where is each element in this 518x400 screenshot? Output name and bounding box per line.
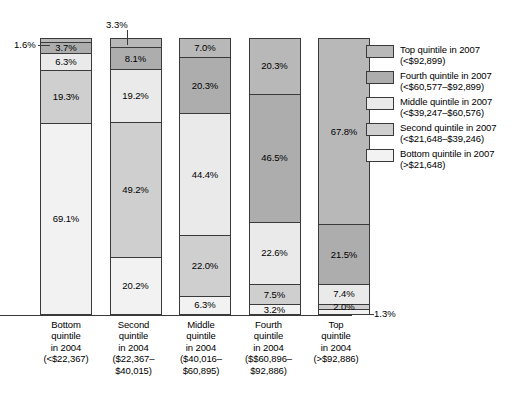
- x-axis-label-line: quintile: [100, 330, 168, 341]
- segment-value-label: 3.2%: [264, 305, 285, 315]
- bar-bottom-2004[interactable]: 1.6%3.7%6.3%19.3%69.1%: [40, 38, 92, 315]
- bar-segment-fourth[interactable]: 21.5%: [319, 225, 369, 284]
- bar-segment-bottom[interactable]: 69.1%: [41, 124, 91, 314]
- legend-label-line: (<$92,899): [400, 55, 480, 66]
- chart-legend: Top quintile in 2007(<$92,899)Fourth qui…: [366, 44, 514, 174]
- x-axis-label-line: Bottom: [32, 319, 100, 330]
- segment-value-label: 22.6%: [261, 248, 287, 258]
- bar-segment-fourth[interactable]: 8.1%: [111, 48, 161, 70]
- legend-label: Second quintile in 2007(<$21,648–$39,246…: [400, 122, 496, 144]
- x-axis-label-line: Top: [302, 319, 370, 330]
- bar-second-2004[interactable]: 3.3%8.1%19.2%49.2%20.2%: [110, 38, 162, 315]
- segment-value-label: 49.2%: [122, 185, 148, 195]
- x-axis-label-line: quintile: [235, 330, 303, 341]
- x-axis-label-line: quintile: [32, 330, 100, 341]
- legend-item-fourth[interactable]: Fourth quintile in 2007(<$60,577–$92,899…: [366, 70, 514, 92]
- x-axis-label-line: (<$22,367): [32, 353, 100, 364]
- bar-segment-second[interactable]: 19.3%: [41, 71, 91, 124]
- bar-segment-second[interactable]: 7.5%: [250, 285, 300, 306]
- segment-value-label: 7.5%: [264, 290, 285, 300]
- segment-value-label: 46.5%: [261, 153, 287, 163]
- x-axis-label-line: in 2004: [32, 342, 100, 353]
- legend-item-bottom[interactable]: Bottom quintile in 2007(>$21,648): [366, 148, 514, 170]
- legend-label-line: Bottom quintile in 2007: [400, 148, 494, 159]
- bar-stack: 67.8%21.5%7.4%2.0%1.3%: [318, 38, 370, 315]
- bars-row: 1.6%3.7%6.3%19.3%69.1%3.3%8.1%19.2%49.2%…: [40, 40, 370, 315]
- bar-segment-middle[interactable]: 44.4%: [180, 114, 230, 236]
- x-axis-label-line: in 2004: [302, 342, 370, 353]
- bar-segment-fourth[interactable]: 20.3%: [180, 58, 230, 114]
- x-axis-label-line: $40,015): [100, 365, 168, 376]
- x-axis-label-line: ($40,016–: [167, 353, 235, 364]
- bar-segment-top[interactable]: 7.0%: [180, 39, 230, 58]
- legend-label: Fourth quintile in 2007(<$60,577–$92,899…: [400, 70, 492, 92]
- x-axis-label-line: ($22,367–: [100, 353, 168, 364]
- bar-segment-bottom[interactable]: 6.3%: [180, 297, 230, 314]
- bar-stack: 3.3%8.1%19.2%49.2%20.2%: [110, 38, 162, 315]
- x-axis-label-line: (>$92,886): [302, 353, 370, 364]
- bar-segment-middle[interactable]: 19.2%: [111, 70, 161, 123]
- segment-value-label: 19.2%: [122, 91, 148, 101]
- legend-label: Middle quintile in 2007(<$39,247–$60,576…: [400, 96, 492, 118]
- segment-value-label: 44.4%: [192, 170, 218, 180]
- x-axis-label-0: Bottomquintilein 2004(<$22,367): [32, 319, 100, 376]
- stacked-bar-chart: 1.6%3.7%6.3%19.3%69.1%3.3%8.1%19.2%49.2%…: [0, 0, 518, 400]
- segment-value-label: 67.8%: [331, 127, 357, 137]
- x-axis-label-2: Middlequintilein 2004($40,016–$60,895): [167, 319, 235, 376]
- segment-value-label: 20.3%: [261, 61, 287, 71]
- callout-bar5-bottom-leader: [362, 314, 374, 315]
- legend-item-top[interactable]: Top quintile in 2007(<$92,899): [366, 44, 514, 66]
- callout-bar1-top-leader: [38, 45, 50, 46]
- callout-bar5-bottom: 1.3%: [374, 308, 396, 319]
- bar-segment-top[interactable]: 3.3%: [111, 39, 161, 48]
- legend-label: Bottom quintile in 2007(>$21,648): [400, 148, 494, 170]
- x-axis-label-line: Second: [100, 319, 168, 330]
- legend-label-line: (<$60,577–$92,899): [400, 81, 492, 92]
- x-axis-label-line: Middle: [167, 319, 235, 330]
- segment-value-label: 3.7%: [55, 43, 76, 53]
- x-axis-baseline: [0, 315, 352, 316]
- legend-label-line: Fourth quintile in 2007: [400, 70, 492, 81]
- x-axis-label-line: Fourth: [235, 319, 303, 330]
- x-axis-label-line: in 2004: [167, 342, 235, 353]
- x-axis-label-4: Topquintilein 2004(>$92,886): [302, 319, 370, 376]
- bar-fourth-2004[interactable]: 20.3%46.5%22.6%7.5%3.2%: [249, 38, 301, 315]
- x-axis-labels: Bottomquintilein 2004(<$22,367)Secondqui…: [40, 319, 370, 376]
- bar-stack: 1.6%3.7%6.3%19.3%69.1%: [40, 38, 92, 315]
- callout-bar2-top: 3.3%: [106, 19, 128, 30]
- legend-label-line: Top quintile in 2007: [400, 44, 480, 55]
- legend-label-line: (>$21,648): [400, 159, 494, 170]
- bar-middle-2004[interactable]: 7.0%20.3%44.4%22.0%6.3%: [179, 38, 231, 315]
- x-axis-label-line: quintile: [302, 330, 370, 341]
- plot-area: 1.6%3.7%6.3%19.3%69.1%3.3%8.1%19.2%49.2%…: [40, 40, 370, 315]
- bar-segment-top[interactable]: 67.8%: [319, 39, 369, 225]
- segment-value-label: 20.2%: [122, 281, 148, 291]
- legend-swatch-top: [366, 45, 394, 58]
- x-axis-label-line: ($$60,896–: [235, 353, 303, 364]
- bar-segment-second[interactable]: 49.2%: [111, 123, 161, 258]
- segment-value-label: 7.0%: [194, 43, 215, 53]
- legend-item-middle[interactable]: Middle quintile in 2007(<$39,247–$60,576…: [366, 96, 514, 118]
- x-axis-label-line: $60,895): [167, 365, 235, 376]
- legend-swatch-fourth: [366, 71, 394, 84]
- legend-label-line: Middle quintile in 2007: [400, 96, 492, 107]
- bar-segment-second[interactable]: 22.0%: [180, 236, 230, 297]
- x-axis-label-line: in 2004: [235, 342, 303, 353]
- bar-segment-bottom[interactable]: 3.2%: [250, 305, 300, 314]
- bar-stack: 20.3%46.5%22.6%7.5%3.2%: [249, 38, 301, 315]
- segment-value-label: 22.0%: [192, 261, 218, 271]
- x-axis-label-line: in 2004: [100, 342, 168, 353]
- bar-segment-middle[interactable]: 6.3%: [41, 54, 91, 71]
- bar-segment-middle[interactable]: 22.6%: [250, 223, 300, 285]
- bar-segment-bottom[interactable]: 20.2%: [111, 258, 161, 314]
- segment-value-label: 21.5%: [331, 250, 357, 260]
- bar-segment-top[interactable]: 20.3%: [250, 39, 300, 95]
- bar-segment-fourth[interactable]: 46.5%: [250, 95, 300, 223]
- legend-label-line: (<$39,247–$60,576): [400, 107, 492, 118]
- bar-top-2004[interactable]: 67.8%21.5%7.4%2.0%1.3%: [318, 38, 370, 315]
- legend-label-line: (<$21,648–$39,246): [400, 133, 496, 144]
- segment-value-label: 19.3%: [53, 92, 79, 102]
- callout-bar2-top-leader: [127, 30, 128, 45]
- segment-value-label: 8.1%: [125, 54, 146, 64]
- legend-item-second[interactable]: Second quintile in 2007(<$21,648–$39,246…: [366, 122, 514, 144]
